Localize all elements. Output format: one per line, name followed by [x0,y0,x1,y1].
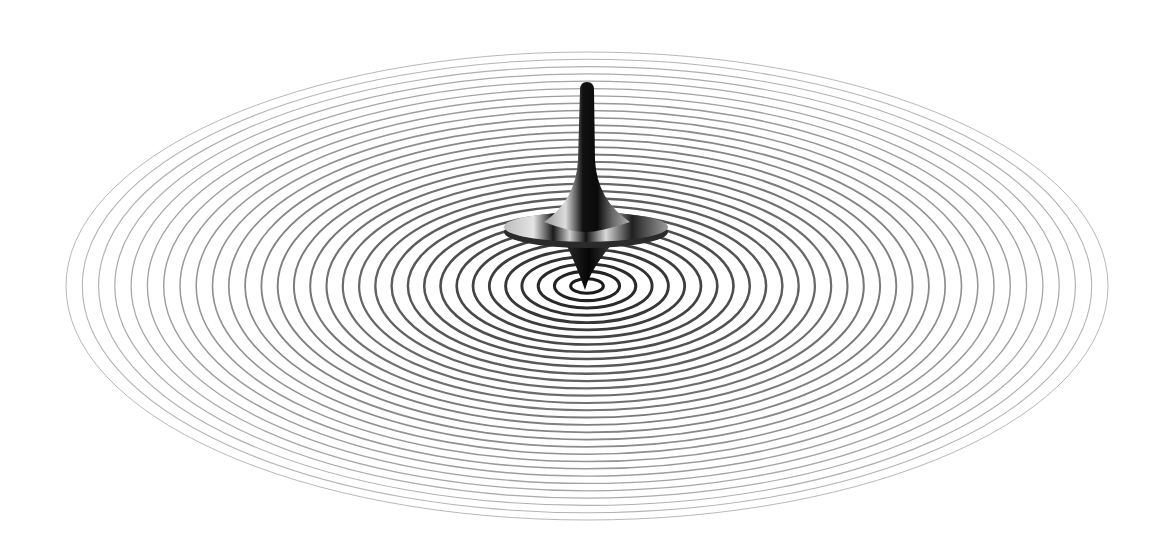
scene [0,0,1172,544]
top-stem [544,82,630,232]
